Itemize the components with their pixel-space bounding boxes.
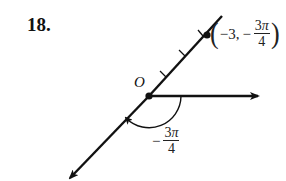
angle-label: − 3π 4	[152, 126, 180, 156]
angle-sign: −	[152, 133, 160, 150]
open-paren: (	[210, 20, 219, 49]
close-paren: )	[271, 20, 280, 49]
terminal-line-lower	[70, 96, 149, 178]
point-theta-denominator: 4	[258, 34, 265, 49]
angle-fraction: 3π 4	[163, 126, 179, 156]
polar-diagram: 18. O ( −3, − 3π 4 ) − 3π 4	[0, 0, 286, 181]
angle-denominator: 4	[168, 141, 175, 156]
point-label: ( −3, − 3π 4 )	[210, 18, 280, 50]
point-theta-num: 3	[255, 18, 262, 33]
origin-dot	[145, 92, 152, 99]
tick-marks	[160, 30, 203, 77]
angle-numerator: 3π	[163, 126, 179, 141]
angle-pi: π	[171, 125, 178, 140]
point-theta-fraction: 3π 4	[254, 19, 270, 49]
problem-number: 18.	[27, 14, 51, 36]
point-r: −3,	[220, 26, 240, 43]
point-theta-pi: π	[262, 18, 269, 33]
origin-label: O	[134, 74, 145, 91]
point-theta-numerator: 3π	[254, 19, 270, 34]
point-theta-sign: −	[242, 26, 250, 43]
